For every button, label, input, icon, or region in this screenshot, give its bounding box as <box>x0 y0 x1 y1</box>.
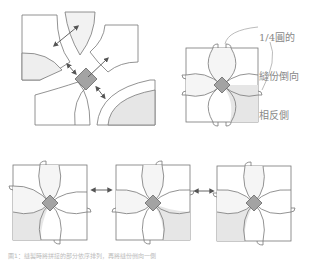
annotation-line: 相反側 <box>259 109 299 122</box>
block-2 <box>112 161 194 244</box>
block-1 <box>9 161 91 244</box>
annotation-line: 縫份倒向 <box>259 70 299 83</box>
block-3 <box>213 162 295 245</box>
figure-caption: 圖1：縫製時將拼接的部分依序排列，再將縫份倒向一側 <box>8 251 156 260</box>
annotation-line: 1/4圓的 <box>259 31 299 44</box>
exploded-pieces <box>22 12 155 125</box>
seam-annotation: 1/4圓的 縫份倒向 相反側 <box>259 5 299 135</box>
